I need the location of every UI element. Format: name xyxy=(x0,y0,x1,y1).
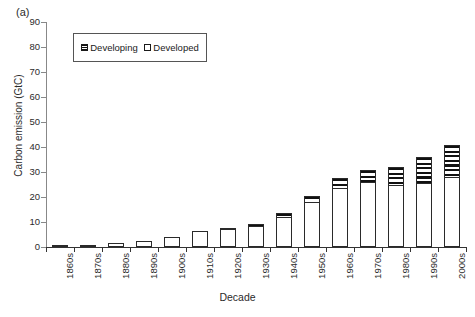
hatched-square-icon xyxy=(81,44,88,51)
x-axis-tick-label: 1880s xyxy=(120,253,131,279)
bar-segment-developed xyxy=(304,202,320,247)
bar-segment-developed xyxy=(388,185,404,248)
bar-segment-developed xyxy=(220,229,236,248)
x-axis-tick xyxy=(74,247,75,252)
x-axis-tick-label: 1900s xyxy=(176,253,187,279)
y-axis-tick xyxy=(41,222,46,223)
y-axis-tick-label: 10 xyxy=(4,216,40,227)
x-axis-tick xyxy=(354,247,355,252)
bar-segment-developed xyxy=(136,241,152,248)
legend-entry-developing: Developing xyxy=(81,42,138,53)
legend-label-developing: Developing xyxy=(90,42,138,53)
bar-stack xyxy=(52,245,68,247)
x-axis-tick xyxy=(298,247,299,252)
bar-segment-developing xyxy=(444,145,460,178)
y-axis-tick xyxy=(41,22,46,23)
bar-stack xyxy=(108,243,124,247)
bar-segment-developed xyxy=(444,177,460,247)
x-axis-tick xyxy=(410,247,411,252)
x-axis-tick-label: 1940s xyxy=(288,253,299,279)
bar-stack xyxy=(276,213,292,248)
x-axis-tick xyxy=(102,247,103,252)
bar-stack xyxy=(444,145,460,248)
y-axis-tick-label: 0 xyxy=(4,241,40,252)
x-axis-tick-label: 1970s xyxy=(372,253,383,279)
bar-stack xyxy=(220,228,236,248)
x-axis-tick xyxy=(186,247,187,252)
bar-segment-developed xyxy=(192,231,208,248)
bar-segment-developed xyxy=(276,217,292,248)
y-axis-tick xyxy=(41,72,46,73)
x-axis-tick xyxy=(466,247,467,252)
y-axis-tick-label: 40 xyxy=(4,141,40,152)
y-axis-tick-label: 60 xyxy=(4,91,40,102)
bar-stack xyxy=(192,231,208,248)
x-axis-tick-label: 1910s xyxy=(204,253,215,279)
figure-container: (a) Carbon emission (GtC) 01020304050607… xyxy=(0,0,475,317)
x-axis-tick xyxy=(46,247,47,252)
x-axis-tick-label: 1860s xyxy=(64,253,75,279)
legend-entry-developed: Developed xyxy=(144,42,198,53)
y-axis-tick-label: 30 xyxy=(4,166,40,177)
chart-legend: Developing Developed xyxy=(73,33,207,62)
bar-segment-developed xyxy=(332,188,348,247)
x-axis-tick xyxy=(326,247,327,252)
bar-stack xyxy=(332,178,348,248)
y-axis-tick xyxy=(41,47,46,48)
y-axis-tick-label: 70 xyxy=(4,66,40,77)
y-axis-tick-label: 90 xyxy=(4,16,40,27)
x-axis-tick xyxy=(382,247,383,252)
x-axis-tick-label: 1990s xyxy=(428,253,439,279)
x-axis-title: Decade xyxy=(0,291,475,303)
bar-stack xyxy=(80,245,96,247)
y-axis-tick-label: 20 xyxy=(4,191,40,202)
y-axis-labels: 0102030405060708090 xyxy=(0,0,40,317)
x-axis-tick xyxy=(214,247,215,252)
x-axis-tick-label: 1960s xyxy=(344,253,355,279)
bar-segment-developed xyxy=(108,243,124,247)
y-axis-tick xyxy=(41,97,46,98)
bar-segment-developed xyxy=(80,245,96,247)
bar-stack xyxy=(136,241,152,248)
bar-segment-developed xyxy=(248,226,264,248)
y-axis-tick-label: 50 xyxy=(4,116,40,127)
bar-segment-developing xyxy=(388,167,404,185)
x-axis-tick-label: 1870s xyxy=(92,253,103,279)
bar-segment-developing xyxy=(416,157,432,183)
bar-stack xyxy=(304,196,320,247)
x-axis-tick xyxy=(158,247,159,252)
y-axis-tick xyxy=(41,122,46,123)
x-axis-tick xyxy=(130,247,131,252)
bar-segment-developed xyxy=(164,237,180,247)
bar-stack xyxy=(248,224,264,248)
y-axis-tick xyxy=(41,147,46,148)
legend-label-developed: Developed xyxy=(153,42,198,53)
open-square-icon xyxy=(144,44,151,51)
bar-stack xyxy=(360,170,376,248)
x-axis-tick-label: 2000s xyxy=(456,253,467,279)
x-axis-tick-label: 1920s xyxy=(232,253,243,279)
y-axis-tick xyxy=(41,197,46,198)
x-axis-tick xyxy=(242,247,243,252)
y-axis-tick xyxy=(41,172,46,173)
bar-stack xyxy=(164,237,180,247)
x-axis-tick xyxy=(438,247,439,252)
bar-segment-developed xyxy=(52,245,68,247)
x-axis-tick xyxy=(270,247,271,252)
x-axis-tick-label: 1950s xyxy=(316,253,327,279)
y-axis-tick xyxy=(41,247,46,248)
x-axis-tick-label: 1890s xyxy=(148,253,159,279)
bar-segment-developed xyxy=(360,182,376,247)
bar-stack xyxy=(388,167,404,247)
bar-segment-developed xyxy=(416,183,432,247)
bar-segment-developing xyxy=(332,178,348,189)
y-axis-tick-label: 80 xyxy=(4,41,40,52)
x-axis-tick-label: 1980s xyxy=(400,253,411,279)
x-axis-tick-label: 1930s xyxy=(260,253,271,279)
bar-segment-developing xyxy=(360,170,376,183)
bar-stack xyxy=(416,157,432,247)
x-axis-line xyxy=(46,247,467,248)
